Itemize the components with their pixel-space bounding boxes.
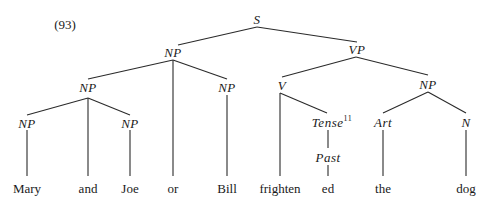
node-past: Past [315, 151, 340, 164]
node-np-subject: NP [164, 46, 182, 59]
node-n: N [461, 116, 470, 129]
node-np-mary: NP [18, 117, 36, 130]
word-frighten: frighten [259, 182, 300, 195]
node-vp: VP [349, 43, 366, 56]
word-or: or [168, 182, 179, 195]
node-np-conj-left: NP [79, 81, 97, 94]
word-joe: Joe [121, 182, 138, 195]
node-np-bill: NP [218, 81, 236, 94]
word-dog: dog [456, 182, 476, 195]
tense-footnote: 11 [343, 114, 352, 123]
word-bill: Bill [217, 182, 237, 195]
node-s: S [254, 13, 261, 26]
node-tense-label: Tense [312, 115, 344, 130]
node-v: V [278, 79, 286, 92]
node-np-joe: NP [121, 117, 139, 130]
word-and: and [79, 182, 98, 195]
node-art: Art [374, 116, 392, 129]
node-tense: Tense11 [312, 115, 352, 128]
example-number: (93) [54, 18, 76, 31]
word-the: the [375, 182, 391, 195]
node-np-object: NP [419, 78, 437, 91]
tree-branches [0, 0, 492, 210]
word-mary: Mary [13, 182, 41, 195]
word-ed: ed [322, 182, 334, 195]
